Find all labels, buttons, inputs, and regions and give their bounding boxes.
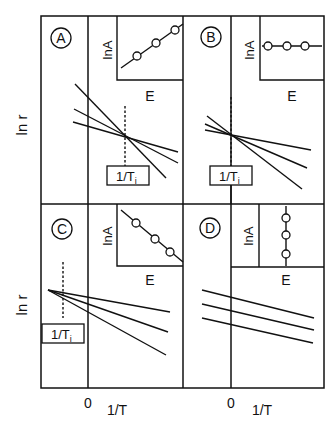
x-axis-label-left: 1/T bbox=[107, 402, 128, 418]
arrhenius-line bbox=[48, 290, 166, 355]
arrhenius-line bbox=[202, 304, 314, 330]
isokinetic-label: 1/Ti bbox=[51, 327, 72, 344]
origin-label-right: 0 bbox=[227, 395, 235, 411]
inset-x-label: E bbox=[287, 88, 296, 104]
panel-d-inset: lnA E bbox=[231, 204, 324, 288]
inset-y-label: lnA bbox=[100, 226, 115, 245]
inset-point bbox=[264, 42, 272, 50]
panel-c-inset: lnA E bbox=[100, 204, 183, 288]
y-axis-label-top: ln r bbox=[13, 115, 30, 136]
panel-d-letter: D bbox=[205, 220, 215, 236]
y-axis-label-bottom: ln r bbox=[13, 295, 30, 316]
arrhenius-line bbox=[202, 318, 313, 343]
panel-b-inset: lnA E bbox=[242, 16, 324, 104]
inset-point bbox=[132, 219, 140, 227]
panel-a-inset: lnA E bbox=[100, 16, 183, 104]
isokinetic-label: 1/Ti bbox=[116, 169, 137, 186]
panel-b: B lnA E 1/Ti bbox=[201, 16, 324, 204]
inset-point bbox=[282, 214, 290, 222]
arrhenius-line bbox=[48, 290, 170, 312]
inset-point bbox=[283, 42, 291, 50]
panel-c: C lnA E 1/Ti bbox=[42, 204, 183, 355]
inset-y-label: lnA bbox=[241, 226, 256, 245]
arrhenius-line bbox=[202, 290, 314, 318]
panel-d: D lnA E bbox=[200, 204, 324, 343]
isokinetic-label: 1/Ti bbox=[219, 169, 240, 186]
inset-point bbox=[301, 42, 309, 50]
inset-point bbox=[171, 26, 179, 34]
inset-x-label: E bbox=[145, 88, 154, 104]
x-axis-label-right: 1/T bbox=[252, 402, 273, 418]
inset-point bbox=[152, 39, 160, 47]
arrhenius-line bbox=[74, 109, 178, 163]
inset-y-label: lnA bbox=[100, 40, 115, 59]
inset-x-label: E bbox=[281, 272, 290, 288]
inset-point bbox=[282, 231, 290, 239]
inset-point bbox=[282, 250, 290, 258]
inset-y-label: lnA bbox=[242, 40, 257, 59]
panel-b-letter: B bbox=[206, 29, 215, 45]
inset-point bbox=[166, 248, 174, 256]
panel-a-letter: A bbox=[56, 30, 66, 46]
panel-c-letter: C bbox=[57, 221, 67, 237]
inset-x-label: E bbox=[145, 272, 154, 288]
origin-label-left: 0 bbox=[84, 395, 92, 411]
panel-a: A lnA E 1/Ti bbox=[51, 16, 183, 186]
inset-point bbox=[133, 52, 141, 60]
compensation-diagram: ln r ln r 0 1/T 0 1/T A lnA E 1/Ti B bbox=[0, 0, 336, 431]
inset-point bbox=[151, 235, 159, 243]
